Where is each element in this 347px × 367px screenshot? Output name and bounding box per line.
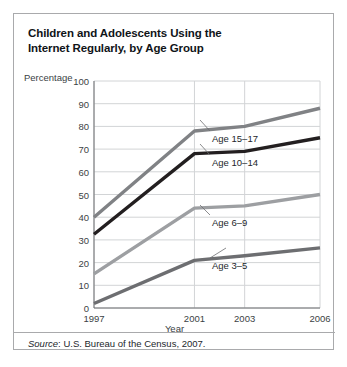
- series-line-3: [94, 248, 320, 304]
- y-tick-label: 80: [65, 121, 89, 132]
- series-label-3: Age 3–5: [212, 260, 247, 271]
- y-tick-label: 20: [65, 257, 89, 268]
- figure-card: Children and Adolescents Using the Inter…: [13, 13, 334, 350]
- series-label-1: Age 10–14: [212, 157, 258, 168]
- y-tick-label: 70: [65, 144, 89, 155]
- y-tick-label: 0: [65, 303, 89, 314]
- source-note: Source: U.S. Bureau of the Census, 2007.: [28, 338, 205, 349]
- y-tick-label: 90: [65, 98, 89, 109]
- y-tick-label: 60: [65, 166, 89, 177]
- chart-svg: [14, 14, 335, 351]
- series-label-2: Age 6–9: [212, 217, 247, 228]
- series-label-0: Age 15–17: [212, 133, 258, 144]
- y-tick-label: 100: [65, 76, 89, 87]
- y-tick-label: 30: [65, 234, 89, 245]
- source-label: Source: [28, 338, 58, 349]
- y-tick-label: 10: [65, 280, 89, 291]
- source-value: U.S. Bureau of the Census, 2007.: [63, 338, 205, 349]
- chart-plot-area: Percentage 01020304050607080901001997200…: [14, 14, 335, 351]
- y-tick-label: 40: [65, 212, 89, 223]
- y-tick-label: 50: [65, 189, 89, 200]
- source-divider: [14, 332, 335, 333]
